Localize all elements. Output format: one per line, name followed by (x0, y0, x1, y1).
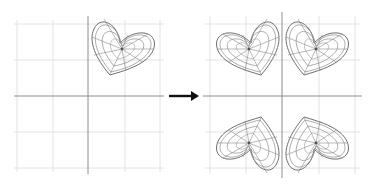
heart-shape-quadrant-3 (217, 117, 280, 173)
diagram-canvas (0, 0, 370, 196)
right-arrow-icon (169, 91, 199, 101)
right-axes (203, 12, 362, 178)
heart-shape-quadrant-1 (286, 19, 349, 75)
left-panel (14, 16, 164, 174)
right-panel (203, 12, 362, 178)
heart-shape-quadrant-2 (217, 19, 280, 75)
left-axes (14, 16, 164, 174)
heart-shape-quadrant-4 (286, 117, 349, 173)
heart-shape-original (92, 19, 155, 75)
